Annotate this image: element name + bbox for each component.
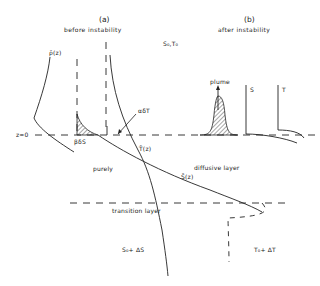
diffusive-layer-label: diffusive layer xyxy=(194,164,240,172)
beta-delta-s-label: βδS xyxy=(74,138,86,146)
s0-plus-delta-s-label: S₀+ ΔS xyxy=(122,246,144,253)
panel-a-label: (a) xyxy=(99,15,110,24)
alpha-delta-t-label: αδT xyxy=(138,107,150,114)
density-profile-label: ρ̄(z) xyxy=(49,49,61,57)
temperature-profile-label: T̄(z) xyxy=(138,145,151,152)
temperature-after-label: T xyxy=(281,86,286,93)
transition-layer-label: transition layer xyxy=(112,207,161,215)
purely-label: purely xyxy=(93,165,113,173)
salinity-after-profile xyxy=(246,85,297,143)
salinity-anomaly-hatched-region xyxy=(77,114,98,135)
salinity-profile-curve xyxy=(98,135,262,212)
temperature-profile-curve xyxy=(110,55,168,276)
salinity-profile-label: S̄(z) xyxy=(181,173,193,180)
plume-label: plume xyxy=(210,78,230,86)
t0-plus-delta-t-label: T₀+ ΔT xyxy=(253,246,276,253)
plume-arrowhead-icon xyxy=(216,85,220,90)
panel-a-caption: before instability xyxy=(64,26,122,34)
ocean-stratification-diagram: (a) before instability (b) after instabi… xyxy=(0,0,320,286)
z-zero-label: z=0 xyxy=(16,131,29,138)
panel-b-label: (b) xyxy=(244,15,255,24)
plume-hatched-shape xyxy=(200,96,238,135)
density-profile-curve xyxy=(34,57,74,152)
s0-t0-label: S₀,T₀ xyxy=(163,40,179,47)
panel-b-caption: after instability xyxy=(218,26,270,34)
salinity-after-label: S xyxy=(250,86,254,93)
deep-salinity-dashed-curve xyxy=(228,203,265,262)
